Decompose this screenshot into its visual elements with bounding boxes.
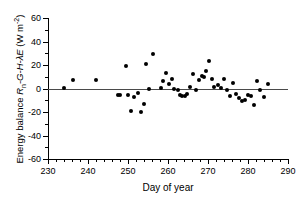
data-point [144,62,148,66]
data-point [258,88,262,92]
y-axis-units-exponent: -2 [13,18,20,24]
x-tick-minor [256,159,257,162]
data-point [197,78,201,82]
y-axis-title-prefix: Energy balance [14,95,25,164]
x-tick-minor [176,159,177,162]
x-tick-minor [192,159,193,162]
y-tick-minor [45,53,48,54]
data-point [126,93,130,97]
data-point [94,78,98,82]
y-tick-minor [45,77,48,78]
x-tick-minor [224,159,225,162]
data-point [252,103,256,107]
x-tick-major [48,159,49,164]
y-tick-minor [45,30,48,31]
data-point [185,92,189,96]
data-point [124,64,128,68]
x-tick-minor [112,159,113,162]
x-tick-minor [184,159,185,162]
x-tick-minor [104,159,105,162]
x-tick-major [288,159,289,164]
data-point [207,59,211,63]
y-tick-major [43,18,48,19]
x-tick-minor [96,159,97,162]
y-axis-symbol-rest: -G-H-λE [14,49,25,84]
data-point [249,94,253,98]
y-axis-units-open: (W m [14,24,25,49]
data-point [262,95,266,99]
data-point [170,77,174,81]
data-point [191,72,195,76]
data-point [231,81,235,85]
x-tick-minor [160,159,161,162]
data-point [210,77,214,81]
data-point [139,110,143,114]
data-point [243,98,247,102]
y-tick-label: -40 [28,131,41,141]
data-point [147,87,151,91]
x-tick-minor [120,159,121,162]
x-tick-label: 230 [40,166,55,176]
x-tick-major [208,159,209,164]
y-tick-label: 60 [31,13,41,23]
y-tick-minor [45,124,48,125]
x-tick-major [168,159,169,164]
x-tick-label: 290 [280,166,295,176]
data-point [164,71,168,75]
x-tick-label: 270 [200,166,215,176]
x-tick-minor [200,159,201,162]
x-tick-minor [240,159,241,162]
y-axis-title: Energy balance Rn-G-H-λE (W m-2) [13,9,27,169]
y-tick-label: 0 [36,84,41,94]
x-tick-minor [232,159,233,162]
y-tick-major [43,89,48,90]
x-tick-major [88,159,89,164]
y-tick-minor [45,147,48,148]
data-point [266,82,270,86]
data-point [129,109,133,113]
x-tick-minor [72,159,73,162]
data-point [142,102,146,106]
y-axis-symbol-r-subscript: n [20,84,27,88]
data-point [136,91,140,95]
x-tick-minor [136,159,137,162]
data-point [222,77,226,81]
data-point [228,94,232,98]
data-point [176,88,180,92]
x-tick-minor [280,159,281,162]
x-tick-major [128,159,129,164]
x-tick-label: 260 [160,166,175,176]
x-tick-minor [80,159,81,162]
y-axis-symbol-r: R [14,88,25,95]
y-tick-label: -20 [28,107,41,117]
y-tick-major [43,42,48,43]
x-tick-minor [56,159,57,162]
x-tick-minor [144,159,145,162]
y-tick-major [43,112,48,113]
x-tick-minor [216,159,217,162]
data-point [151,52,155,56]
y-tick-label: 20 [31,60,41,70]
y-axis-units-close: ) [14,15,25,18]
plot-area: -60-40-200204060 230240250260270280290 [48,18,288,160]
data-point [71,78,75,82]
x-tick-label: 240 [80,166,95,176]
data-point [225,88,229,92]
y-tick-major [43,65,48,66]
x-tick-minor [152,159,153,162]
data-point [159,86,163,90]
y-tick-major [43,136,48,137]
data-point [118,93,122,97]
x-tick-minor [64,159,65,162]
x-tick-label: 280 [240,166,255,176]
x-tick-minor [264,159,265,162]
y-tick-minor [45,100,48,101]
x-tick-label: 250 [120,166,135,176]
data-point [204,69,208,73]
y-tick-label: 40 [31,37,41,47]
energy-balance-scatter-figure: Energy balance Rn-G-H-λE (W m-2) -60-40-… [0,0,306,203]
x-tick-major [248,159,249,164]
data-point [167,82,171,86]
data-point [161,79,165,83]
data-point [202,75,206,79]
